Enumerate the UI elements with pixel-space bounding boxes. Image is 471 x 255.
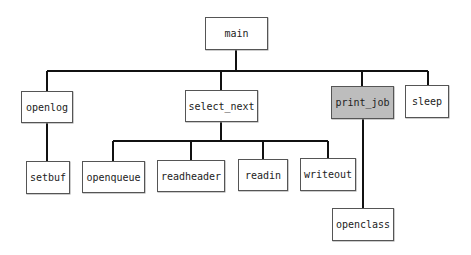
node-openclass[interactable]: openclass xyxy=(332,208,394,241)
node-setbuf[interactable]: setbuf xyxy=(26,161,70,194)
call-tree-diagram: main openlog select_next print_job sleep… xyxy=(0,0,471,255)
node-select-next[interactable]: select_next xyxy=(185,90,258,122)
node-main[interactable]: main xyxy=(205,17,268,50)
node-readheader[interactable]: readheader xyxy=(157,160,225,192)
node-openqueue[interactable]: openqueue xyxy=(82,161,145,193)
node-openlog[interactable]: openlog xyxy=(21,91,73,123)
node-writeout[interactable]: writeout xyxy=(300,158,356,191)
node-readin[interactable]: readin xyxy=(238,159,288,191)
node-sleep[interactable]: sleep xyxy=(405,85,449,118)
node-print-job[interactable]: print_job xyxy=(331,86,394,119)
